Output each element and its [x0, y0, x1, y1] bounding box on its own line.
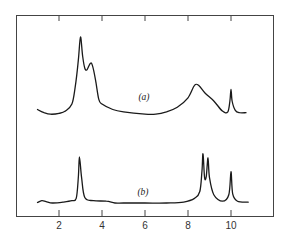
x-tick-label: 4: [99, 220, 105, 231]
nmr-spectra-chart: 246810 (a) (b): [0, 0, 286, 236]
spectrum-a-label: (a): [138, 92, 149, 103]
x-tick-label: 6: [142, 220, 148, 231]
spectrum-b-label: (b): [137, 187, 148, 198]
x-tick-label: 8: [185, 220, 191, 231]
x-axis-tick-labels: 246810: [56, 220, 237, 231]
spectrum-a-curve: [38, 37, 247, 115]
x-tick-label: 10: [225, 220, 237, 231]
x-tick-label: 2: [56, 220, 62, 231]
x-axis-ticks: [59, 15, 231, 216]
